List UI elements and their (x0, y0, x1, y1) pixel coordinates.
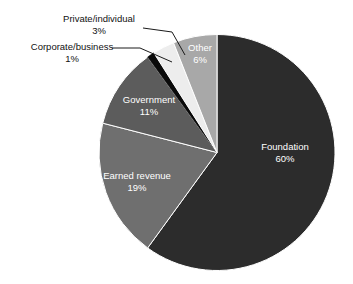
slice-label-foundation-value: 60% (247, 153, 323, 165)
callout-label-private-individual: Private/individual 3% (36, 13, 162, 36)
slice-label-earned-revenue-value: 19% (89, 182, 185, 194)
slice-label-other: Other 6% (176, 42, 224, 65)
callout-label-private-individual-value: 3% (36, 25, 162, 37)
slice-label-government-value: 11% (107, 106, 191, 118)
callout-label-private-individual-name: Private/individual (63, 13, 135, 24)
slice-label-other-name: Other (188, 42, 212, 53)
slice-label-earned-revenue: Earned revenue 19% (89, 170, 185, 193)
slice-label-earned-revenue-name: Earned revenue (103, 170, 171, 181)
slice-label-foundation: Foundation 60% (247, 141, 323, 164)
callout-label-corporate-business-value: 1% (4, 53, 140, 65)
slice-label-government: Government 11% (107, 94, 191, 117)
slice-label-other-value: 6% (176, 54, 224, 66)
slice-label-foundation-name: Foundation (261, 141, 309, 152)
slice-label-government-name: Government (123, 94, 175, 105)
callout-label-corporate-business-name: Corporate/business (31, 41, 113, 52)
callout-label-corporate-business: Corporate/business 1% (4, 41, 140, 64)
pie-chart: Foundation 60% Earned revenue 19% Govern… (0, 0, 353, 284)
